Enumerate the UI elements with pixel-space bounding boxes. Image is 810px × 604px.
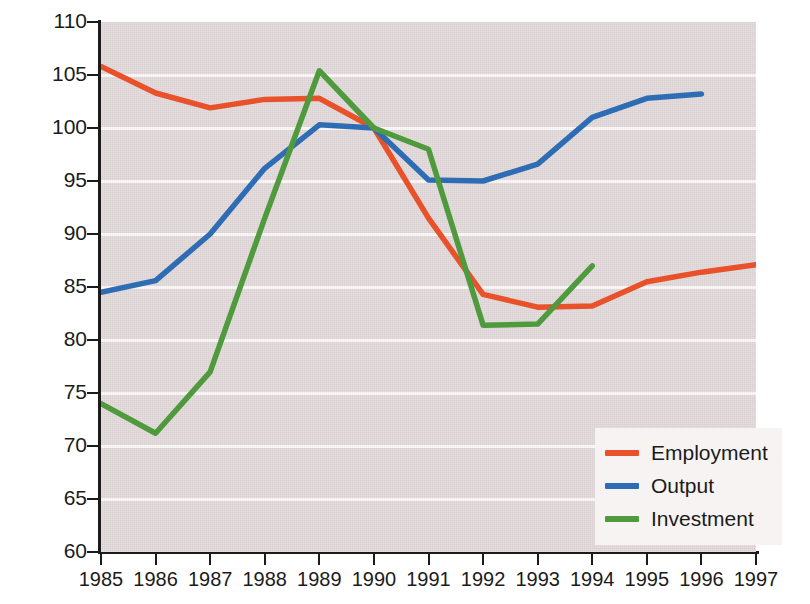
legend-item-employment[interactable]: Employment	[605, 436, 768, 469]
x-tick-mark	[428, 553, 430, 565]
y-tick-mark	[87, 127, 98, 129]
x-axis-ticks: 1985198619871988198919901991199219931994…	[0, 553, 810, 603]
x-tick-mark	[700, 553, 702, 565]
x-tick-mark	[264, 553, 266, 565]
legend-item-output[interactable]: Output	[605, 469, 768, 502]
legend-label: Employment	[651, 441, 768, 465]
legend-item-investment[interactable]: Investment	[605, 502, 768, 535]
y-tick-mark	[87, 339, 98, 341]
y-tick-mark	[87, 392, 98, 394]
y-tick-mark	[87, 445, 98, 447]
x-tick-mark	[100, 553, 102, 565]
x-tick-mark	[482, 553, 484, 565]
chart-legend: EmploymentOutputInvestment	[595, 428, 782, 545]
y-tick-label: 85	[7, 274, 87, 298]
y-tick-mark	[87, 180, 98, 182]
legend-label: Investment	[651, 507, 754, 531]
y-tick-mark	[87, 286, 98, 288]
x-tick-mark	[155, 553, 157, 565]
x-tick-mark	[646, 553, 648, 565]
y-tick-mark	[87, 498, 98, 500]
y-tick-label: 95	[7, 168, 87, 192]
legend-swatch-icon	[605, 483, 639, 489]
y-tick-label: 90	[7, 221, 87, 245]
line-chart: 1990=100 1101051009590858075706560 19851…	[0, 0, 810, 604]
y-tick-label: 65	[7, 486, 87, 510]
y-tick-label: 100	[7, 115, 87, 139]
legend-swatch-icon	[605, 450, 639, 456]
x-tick-mark	[591, 553, 593, 565]
x-tick-mark	[373, 553, 375, 565]
x-tick-label: 1997	[721, 568, 791, 591]
y-tick-mark	[87, 74, 98, 76]
y-tick-label: 110	[7, 9, 87, 33]
y-tick-mark	[87, 233, 98, 235]
series-line-employment	[101, 67, 756, 308]
series-line-output	[101, 94, 701, 292]
y-axis-ticks: 1101051009590858075706560	[0, 0, 87, 604]
y-tick-label: 75	[7, 380, 87, 404]
y-tick-label: 80	[7, 327, 87, 351]
y-tick-label: 70	[7, 433, 87, 457]
x-tick-mark	[318, 553, 320, 565]
legend-swatch-icon	[605, 516, 639, 522]
legend-label: Output	[651, 474, 714, 498]
x-tick-mark	[209, 553, 211, 565]
x-tick-mark	[755, 553, 757, 565]
x-tick-mark	[537, 553, 539, 565]
y-tick-label: 105	[7, 62, 87, 86]
y-tick-mark	[87, 21, 98, 23]
